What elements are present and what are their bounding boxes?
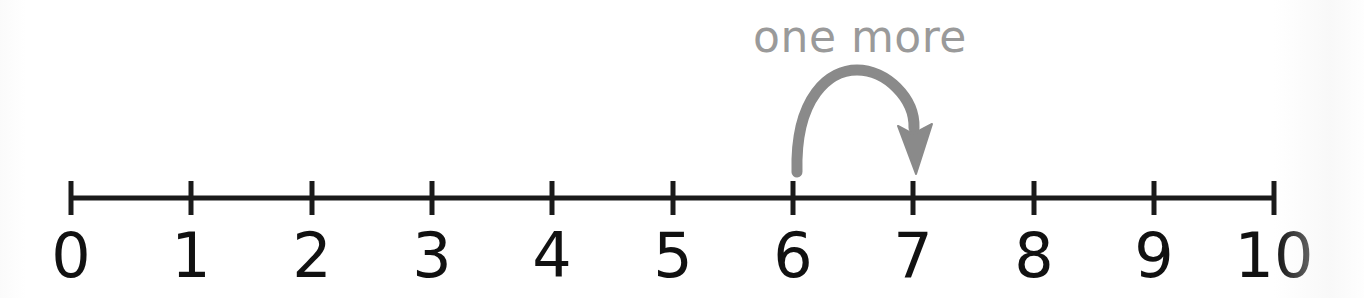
curved-jump-arrow-icon (797, 70, 932, 174)
tick-label-3: 3 (412, 219, 451, 292)
tick-label-0: 0 (51, 219, 90, 292)
tick-label-4: 4 (532, 219, 571, 292)
annotation-label: one more (753, 11, 967, 62)
tick-label-2: 2 (292, 219, 331, 292)
tick-label-1: 1 (171, 219, 210, 292)
tick-label-5: 5 (653, 219, 692, 292)
tick-label-6: 6 (773, 219, 812, 292)
tick-label-10: 10 (1235, 219, 1314, 292)
tick-label-9: 9 (1134, 219, 1173, 292)
number-line-canvas: 012345678910 one more (0, 0, 1364, 298)
tick-label-8: 8 (1014, 219, 1053, 292)
tick-labels: 012345678910 (51, 219, 1313, 292)
tick-label-7: 7 (893, 219, 932, 292)
number-line-figure: 012345678910 one more (0, 0, 1364, 298)
jump-arc-path (797, 70, 914, 172)
